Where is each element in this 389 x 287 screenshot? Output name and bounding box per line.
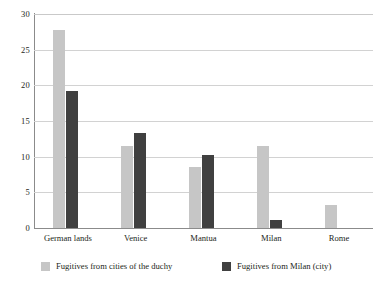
legend-swatch-icon-milan (222, 262, 231, 271)
x-axis-line (34, 228, 373, 229)
x-axis-label-rome: Rome (289, 233, 389, 244)
y-tick-label-20: 20 (4, 81, 30, 90)
legend-entry-duchy: Fugitives from cities of the duchy (41, 261, 172, 271)
bar-mantua-series-2 (202, 155, 214, 228)
plot-area (34, 14, 373, 228)
bar-venice-series-2 (134, 133, 146, 228)
gridline-25 (34, 50, 373, 51)
y-tick-label-30: 30 (4, 10, 30, 19)
legend-label-duchy: Fugitives from cities of the duchy (56, 261, 172, 271)
y-tick-label-10: 10 (4, 153, 30, 162)
y-tick-label-15: 15 (4, 117, 30, 126)
gridline-20 (34, 85, 373, 86)
bar-rome-series-1 (325, 205, 337, 228)
gridline-15 (34, 121, 373, 122)
y-tick-label-5: 5 (4, 188, 30, 197)
bar-mantua-series-1 (189, 167, 201, 228)
legend-entry-milan: Fugitives from Milan (city) (222, 261, 331, 271)
legend-swatch-icon-duchy (41, 262, 50, 271)
gridline-30 (34, 14, 373, 15)
legend-label-milan: Fugitives from Milan (city) (237, 261, 331, 271)
y-tick-label-25: 25 (4, 46, 30, 55)
bar-chart: 30 25 20 15 10 5 0 German landsVeniceMan… (0, 0, 389, 287)
bar-german-lands-series-1 (53, 30, 65, 228)
bar-german-lands-series-2 (66, 91, 78, 228)
x-axis-category-labels: German landsVeniceMantuaMilanRome (34, 233, 373, 249)
bar-milan-series-2 (270, 220, 282, 228)
chart-legend: Fugitives from cities of the duchy Fugit… (0, 261, 389, 279)
bar-milan-series-1 (257, 146, 269, 228)
y-tick-label-0: 0 (4, 224, 30, 233)
bar-venice-series-1 (121, 146, 133, 228)
